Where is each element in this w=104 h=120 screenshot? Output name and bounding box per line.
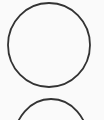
canvas-background xyxy=(0,0,104,120)
page-canvas xyxy=(0,0,104,120)
shape-layer xyxy=(0,0,104,120)
